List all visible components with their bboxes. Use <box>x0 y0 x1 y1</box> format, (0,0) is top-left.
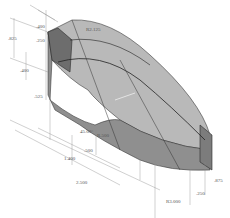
dim-bottom-radius: R3.000 <box>166 199 181 204</box>
dim-top-offset-2: .250 <box>36 38 45 43</box>
right-end-face <box>200 125 212 170</box>
dim-right-height: .875 <box>214 178 223 183</box>
dim-len-1: 1.400 <box>64 156 76 161</box>
dim-side-2: .525 <box>34 94 43 99</box>
dim-top-radius: R2.125 <box>86 27 101 32</box>
isometric-part-drawing: .825 .400 .250 R2.125 .400 .525 45.00° R… <box>0 0 230 218</box>
dim-side-1: .400 <box>20 68 29 73</box>
dim-len-total: 2.500 <box>76 180 88 185</box>
dim-mid-len: .500 <box>84 148 93 153</box>
dim-angle: 45.00° <box>80 129 93 134</box>
part-body <box>48 20 212 170</box>
dim-right-small: .250 <box>196 191 205 196</box>
dim-top-offset-1: .400 <box>36 24 45 29</box>
dim-inner-radius: R.500 <box>97 133 110 138</box>
dim-left-height: .825 <box>8 36 17 41</box>
